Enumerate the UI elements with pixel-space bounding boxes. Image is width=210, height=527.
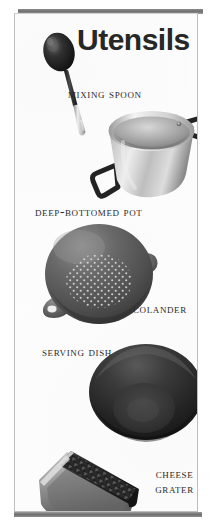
caption-colander: Colander	[133, 301, 187, 316]
deep-bottomed-pot-icon	[87, 102, 198, 202]
caption-cheese-grater: Cheese Grater	[152, 466, 197, 496]
caption-mixing-spoon: Mixing Spoon	[68, 86, 142, 101]
caption-deep-bottomed-pot: Deep-Bottomed Pot	[35, 204, 142, 219]
caption-serving-dish: Serving Dish	[42, 344, 112, 359]
frame-bottom-bar	[14, 512, 202, 517]
poster-card: Utensils	[14, 13, 198, 512]
mixing-spoon-icon	[35, 22, 95, 140]
cheese-grater-icon	[33, 444, 153, 512]
utensils-poster: Utensils	[0, 0, 210, 527]
